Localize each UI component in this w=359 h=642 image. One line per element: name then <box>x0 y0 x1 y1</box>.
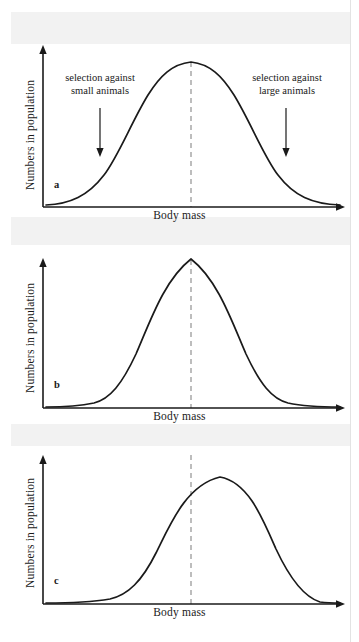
annotation-right-line2: large animals <box>221 85 353 98</box>
panel-c: c Numbers in population Body mass <box>0 425 359 642</box>
y-axis-arrowhead <box>39 45 46 54</box>
y-axis-arrowhead <box>39 258 46 267</box>
annotation-left-line1: selection against <box>34 72 166 85</box>
annotation-selection-against-large-animals: selection against large animals <box>221 72 353 98</box>
curve-panel-b <box>46 259 340 407</box>
panel-b: b Numbers in population Body mass <box>0 218 359 425</box>
panel-letter-a: a <box>54 179 59 190</box>
annotation-arrow-left-head <box>96 148 103 157</box>
annotation-right-line1: selection against <box>221 72 353 85</box>
annotation-arrow-right-head <box>282 148 289 157</box>
annotation-selection-against-small-animals: selection against small animals <box>34 72 166 98</box>
panel-b-plot <box>0 218 359 425</box>
y-axis-label-panel-b: Numbers in population <box>24 283 36 393</box>
curve-panel-c <box>46 477 340 603</box>
figure-container: selection against small animals selectio… <box>0 0 359 642</box>
y-axis-arrowhead <box>39 455 46 464</box>
panel-letter-b: b <box>54 379 60 390</box>
y-axis-label-panel-a: Numbers in population <box>24 80 36 190</box>
panel-a: selection against small animals selectio… <box>0 0 359 218</box>
x-axis-label-panel-c: Body mass <box>0 606 359 618</box>
x-axis-label-panel-b: Body mass <box>0 410 359 422</box>
y-axis-label-panel-c: Numbers in population <box>24 478 36 588</box>
panel-letter-c: c <box>54 575 59 586</box>
annotation-left-line2: small animals <box>34 85 166 98</box>
